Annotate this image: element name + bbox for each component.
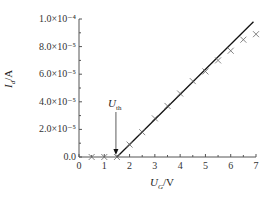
data-point-marker xyxy=(127,142,133,148)
x-tick-label: 6 xyxy=(228,160,233,171)
y-tick-label: 4.0×10⁻⁵ xyxy=(39,96,76,107)
data-point-marker xyxy=(240,37,246,43)
x-axis-label: UG/V xyxy=(150,176,174,191)
y-tick-label: 8.0×10⁻⁵ xyxy=(39,41,76,52)
data-point-marker xyxy=(228,48,234,54)
x-tick-label: 7 xyxy=(254,160,259,171)
data-point-marker xyxy=(190,78,196,84)
x-tick-label: 4 xyxy=(178,160,183,171)
data-point-marker xyxy=(253,31,259,37)
data-point-marker xyxy=(165,103,171,109)
x-tick-label: 3 xyxy=(152,160,157,171)
y-axis-label: Id/A xyxy=(2,70,17,88)
fit-line xyxy=(117,22,254,157)
data-point-marker xyxy=(177,91,183,97)
y-tick-label: 0.0 xyxy=(64,151,77,162)
chart: 012345670.02.0×10⁻⁵4.0×10⁻⁵6.0×10⁻⁵8.0×1… xyxy=(0,0,271,197)
data-point-marker xyxy=(152,115,158,121)
y-tick-label: 6.0×10⁻⁵ xyxy=(39,68,76,79)
threshold-annotation: Uth xyxy=(108,97,121,112)
data-point-marker xyxy=(215,57,221,63)
y-tick-label: 2.0×10⁻⁵ xyxy=(39,123,76,134)
x-tick-label: 2 xyxy=(127,160,132,171)
data-point-marker xyxy=(139,129,145,135)
x-tick-label: 5 xyxy=(203,160,208,171)
y-tick-label: 1.0×10⁻⁴ xyxy=(39,13,76,24)
x-tick-label: 0 xyxy=(77,160,82,171)
x-tick-label: 1 xyxy=(102,160,107,171)
